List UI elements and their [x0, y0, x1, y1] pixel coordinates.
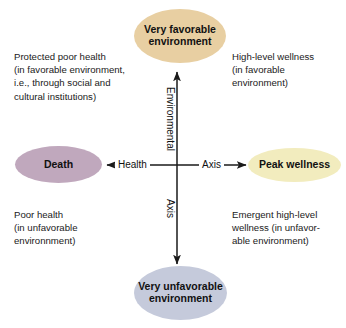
axis-label-health-axis: Axis [199, 159, 224, 170]
axis-label-environmental-axis: Axis [165, 196, 176, 221]
caption-bottom-left: Poor health (in unfavorable environnment… [14, 208, 134, 248]
axis-label-environmental: Environmental [165, 84, 176, 154]
node-label: Very unfavorable environment [134, 281, 227, 305]
axis-label-health: Health [115, 159, 150, 170]
wellness-quadrant-diagram: Very favorable environment Peak wellness… [0, 0, 346, 328]
caption-top-right: High-level wellness (in favorable enviro… [232, 50, 344, 90]
node-label: Very favorable environment [134, 24, 226, 48]
node-peak-wellness: Peak wellness [248, 148, 341, 182]
node-label: Peak wellness [255, 159, 334, 171]
node-very-unfavorable-environment: Very unfavorable environment [134, 266, 227, 320]
caption-bottom-right: Emergent high-level wellness (in unfavor… [232, 208, 346, 248]
node-label: Death [40, 159, 77, 171]
caption-top-left: Protected poor health (in favorable envi… [14, 50, 154, 103]
node-death: Death [15, 146, 102, 183]
